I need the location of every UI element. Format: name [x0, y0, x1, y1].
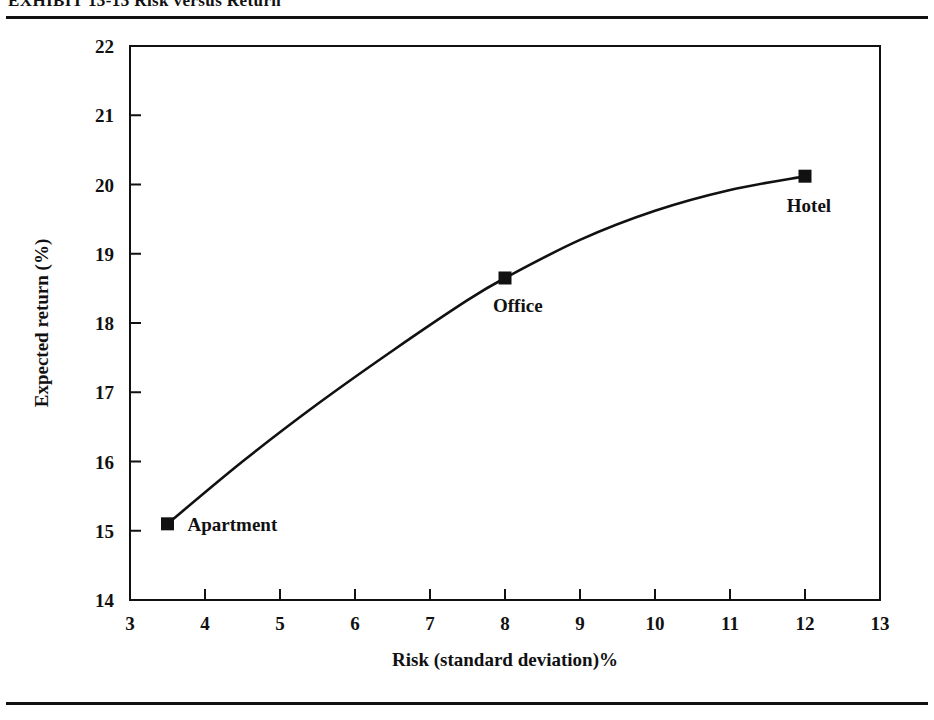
y-tick-label: 19 [95, 244, 114, 265]
y-tick-label: 20 [95, 175, 114, 196]
data-point-label: Office [493, 295, 543, 316]
exhibit-title: EXHIBIT 13-13 Risk versus Return [8, 0, 281, 11]
x-axis-ticks [205, 589, 805, 600]
x-tick-label: 5 [275, 613, 285, 634]
y-tick-label: 22 [95, 36, 114, 57]
data-point-marker [499, 271, 512, 284]
top-divider-rule [6, 16, 928, 19]
x-tick-label: 7 [425, 613, 435, 634]
x-tick-label: 9 [575, 613, 585, 634]
y-tick-label: 14 [95, 590, 115, 611]
x-axis-title: Risk (standard deviation)% [392, 649, 618, 671]
y-tick-label: 17 [95, 382, 115, 403]
y-tick-label: 21 [95, 105, 114, 126]
y-axis-title: Expected return (%) [31, 239, 53, 408]
data-point-markers [161, 170, 812, 531]
x-tick-label: 10 [646, 613, 665, 634]
x-tick-label: 4 [200, 613, 210, 634]
x-tick-label: 13 [871, 613, 890, 634]
bottom-divider-rule [6, 702, 928, 705]
data-point-label: Apartment [188, 514, 278, 535]
x-tick-label: 6 [350, 613, 360, 634]
x-tick-label: 11 [721, 613, 739, 634]
y-tick-label: 16 [95, 452, 114, 473]
y-axis-ticks [130, 115, 141, 531]
risk-return-chart: 345678910111213 141516171819202122 Apart… [0, 20, 934, 700]
y-tick-label: 18 [95, 313, 114, 334]
x-tick-label: 12 [796, 613, 815, 634]
data-point-labels: ApartmentOfficeHotel [188, 195, 832, 535]
x-axis-tick-labels: 345678910111213 [125, 613, 889, 634]
data-point-marker [161, 517, 174, 530]
chart-svg: 345678910111213 141516171819202122 Apart… [0, 20, 934, 700]
y-tick-label: 15 [95, 521, 114, 542]
risk-return-curve [168, 176, 806, 524]
x-tick-label: 8 [500, 613, 510, 634]
y-axis-tick-labels: 141516171819202122 [95, 36, 115, 611]
data-point-marker [799, 170, 812, 183]
x-tick-label: 3 [125, 613, 135, 634]
data-point-label: Hotel [787, 195, 831, 216]
